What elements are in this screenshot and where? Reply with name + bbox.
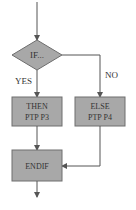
- endif-node: ENDIF: [12, 150, 62, 181]
- decision-node: IF...: [12, 40, 62, 70]
- then-node: THEN PTP P3: [12, 97, 62, 126]
- no-arrow: [62, 55, 100, 97]
- then-action: PTP P3: [25, 113, 49, 122]
- decision-label: IF...: [30, 50, 44, 60]
- else-action: PTP P4: [88, 113, 112, 122]
- else-to-endif-arrow: [62, 126, 100, 166]
- then-label: THEN: [26, 102, 48, 111]
- else-label: ELSE: [90, 102, 109, 111]
- no-label: NO: [105, 70, 118, 80]
- else-node: ELSE PTP P4: [75, 97, 125, 126]
- endif-label: ENDIF: [25, 162, 49, 171]
- yes-label: YES: [15, 76, 32, 86]
- flowchart-diagram: IF... YES NO THEN PTP P3 ELSE PTP P4 END…: [0, 0, 136, 210]
